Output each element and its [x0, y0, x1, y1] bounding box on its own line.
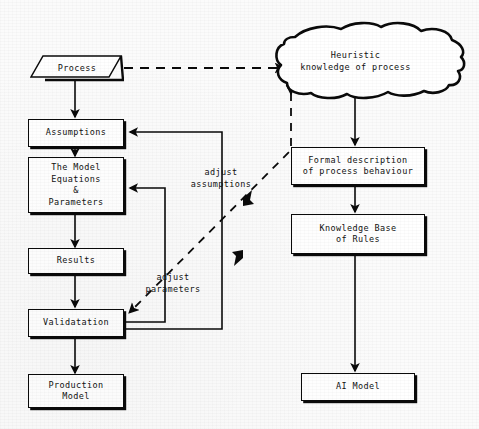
node-model-equations[interactable]: The Model Equations & Parameters [28, 157, 124, 213]
node-ai-model-label: AI Model [336, 381, 380, 393]
node-process-label: Process [30, 53, 124, 83]
node-validatation[interactable]: Validatation [28, 309, 124, 337]
node-ai-model[interactable]: AI Model [301, 373, 415, 401]
node-production-model-label: Production Model [48, 380, 103, 403]
edge-label-adjust-parameters: adjust parameters [130, 272, 216, 295]
node-knowledge-base-label: Knowledge Base of Rules [319, 223, 396, 246]
node-results[interactable]: Results [28, 248, 124, 274]
node-assumptions[interactable]: Assumptions [28, 119, 124, 147]
node-formal-description-label: Formal description of process behaviour [303, 155, 413, 178]
edge-validatation-to-model-feedback [126, 188, 165, 322]
edge-label-adjust-assumptions: adjust assumptions [178, 167, 264, 190]
node-heuristic-knowledge[interactable]: Heuristic knowledge of process [283, 44, 428, 78]
node-heuristic-knowledge-label: Heuristic knowledge of process [300, 49, 410, 73]
node-production-model[interactable]: Production Model [28, 374, 124, 408]
node-assumptions-label: Assumptions [46, 127, 107, 139]
node-validatation-label: Validatation [43, 317, 109, 329]
node-model-equations-label: The Model Equations & Parameters [48, 162, 103, 208]
diagonal-arrowheads [232, 190, 254, 266]
node-knowledge-base[interactable]: Knowledge Base of Rules [291, 214, 425, 254]
diagram-canvas: Process Assumptions The Model Equations … [0, 0, 479, 429]
edge-validatation-to-assumptions-feedback [126, 132, 222, 329]
node-results-label: Results [57, 255, 96, 267]
node-formal-description[interactable]: Formal description of process behaviour [291, 147, 425, 185]
